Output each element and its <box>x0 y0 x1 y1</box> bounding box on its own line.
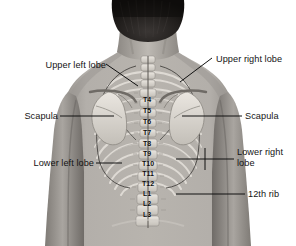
label-lower-left-lobe: Lower left lobe <box>2 158 94 169</box>
label-upper-right-lobe: Upper right lobe <box>216 54 296 65</box>
label-twelfth-rib: 12th rib <box>248 189 296 200</box>
vertebra-label-t8: T8 <box>143 140 151 147</box>
vertebra-label-t7: T7 <box>143 129 151 136</box>
label-upper-left-lobe: Upper left lobe <box>8 60 106 71</box>
vertebra-label-t5: T5 <box>143 107 151 114</box>
vertebra-label-t12: T12 <box>142 180 154 187</box>
vertebra-label-l2: L2 <box>143 200 151 207</box>
vertebra-label-l1: L1 <box>143 190 151 197</box>
anatomy-figure: Upper left lobe Upper right lobe Scapula… <box>0 0 296 246</box>
vertebra-label-l3: L3 <box>143 211 151 218</box>
vertebra-label-t9: T9 <box>143 150 151 157</box>
vertebra-label-t11: T11 <box>142 170 154 177</box>
vertebra-label-t6: T6 <box>143 118 151 125</box>
label-lower-right-lobe: Lower right lobe <box>237 147 295 169</box>
label-scapula-left: Scapula <box>2 111 58 122</box>
vertebra-label-t10: T10 <box>142 160 154 167</box>
label-scapula-right: Scapula <box>245 111 295 122</box>
vertebra-label-t4: T4 <box>143 96 151 103</box>
